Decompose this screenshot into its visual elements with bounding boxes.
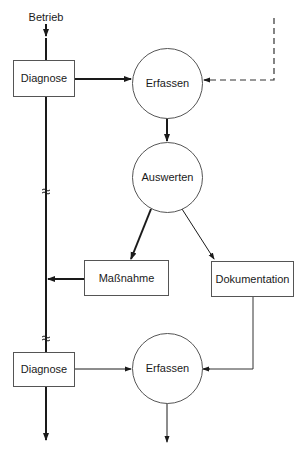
diagnose-bottom-label: Diagnose bbox=[13, 363, 75, 376]
diagnose-top-label: Diagnose bbox=[13, 72, 75, 85]
diagram-canvas bbox=[0, 0, 302, 453]
betrieb-label: Betrieb bbox=[26, 11, 66, 24]
edge-external-dashed bbox=[204, 18, 274, 80]
massnahme-label: Maßnahme bbox=[84, 272, 169, 285]
auswerten-label: Auswerten bbox=[132, 171, 203, 184]
edge-auswerten-dokumentation bbox=[182, 209, 214, 259]
dokumentation-label: Dokumentation bbox=[211, 273, 294, 286]
edge-auswerten-massnahme bbox=[131, 209, 151, 259]
erfassen-top-label: Erfassen bbox=[132, 77, 203, 90]
erfassen-bottom-label: Erfassen bbox=[132, 362, 203, 375]
edge-dokumentation-erfassen bbox=[203, 296, 253, 369]
